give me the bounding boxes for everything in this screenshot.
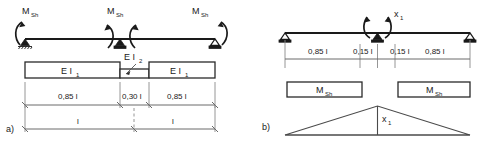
panel-tag-b: b) <box>262 122 270 132</box>
dim-a-upper-1: 0,85 l <box>58 92 78 101</box>
panel-a: M Sh M Sh M Sh <box>6 6 227 134</box>
moment-block-b-left-subscript: Sh <box>325 91 332 97</box>
dim-b-1: 0,85 l <box>308 47 328 56</box>
moment-label-a-middle-symbol: M <box>107 6 115 16</box>
moment-block-b-right-subscript: Sh <box>435 91 442 97</box>
influence-label-b-subscript: 1 <box>388 120 392 126</box>
dim-a-lower-2: l <box>172 117 174 126</box>
moment-label-a-right: M Sh <box>192 6 208 18</box>
moment-label-a-middle: M Sh <box>107 6 123 18</box>
stiffness-label-a-middle-subscript: 2 <box>139 58 143 64</box>
dim-a-upper-3: 0,85 l <box>167 92 187 101</box>
support-b-middle <box>372 33 384 42</box>
dim-b-2: 0,15 l <box>353 47 373 56</box>
stiffness-box-a-middle <box>120 69 149 78</box>
moment-block-b-right-symbol: M <box>426 85 434 95</box>
release-arrow-b-right <box>385 17 392 38</box>
influence-label-b-symbol: x <box>382 114 387 124</box>
moment-label-a-right-subscript: Sh <box>201 12 208 18</box>
release-arrow-b-left <box>364 17 371 38</box>
support-a-right <box>209 39 221 48</box>
support-a-middle <box>114 39 126 48</box>
moment-label-a-left-subscript: Sh <box>31 12 38 18</box>
dim-a-upper-2: 0,30 l <box>122 92 142 101</box>
moment-block-b-left-symbol: M <box>316 85 324 95</box>
stiffness-box-a-left <box>25 62 120 78</box>
dim-a-lower-1: l <box>77 117 79 126</box>
moment-label-a-left-symbol: M <box>22 6 30 16</box>
moment-label-a-middle-subscript: Sh <box>116 12 123 18</box>
redundant-label-b-subscript: 1 <box>400 15 404 21</box>
stiffness-box-a-right <box>149 62 215 78</box>
moment-arrow-a-mid-right <box>130 25 139 48</box>
stiffness-label-a-left-symbol: E I <box>61 66 72 76</box>
dim-b-3: 0,15 l <box>390 47 410 56</box>
moment-label-a-left: M Sh <box>22 6 38 18</box>
structural-beam-figure: M Sh M Sh M Sh <box>0 0 494 141</box>
influence-label-b: x 1 <box>382 114 392 126</box>
moment-arrow-a-right <box>218 22 228 45</box>
panel-b: x 1 0,85 l 0,15 l 0,15 l 0,85 l M Sh <box>262 9 476 135</box>
moment-arrow-a-mid-left <box>104 25 113 48</box>
stiffness-label-a-right-symbol: E I <box>170 66 181 76</box>
moment-label-a-right-symbol: M <box>192 6 200 16</box>
stiffness-label-a-middle-symbol: E I <box>124 52 135 62</box>
influence-line-b <box>285 106 470 135</box>
redundant-label-b: x 1 <box>394 9 404 21</box>
dim-b-4: 0,85 l <box>425 47 445 56</box>
panel-tag-a: a) <box>6 124 14 134</box>
moment-block-b-right <box>398 82 470 97</box>
redundant-label-b-symbol: x <box>394 9 399 19</box>
